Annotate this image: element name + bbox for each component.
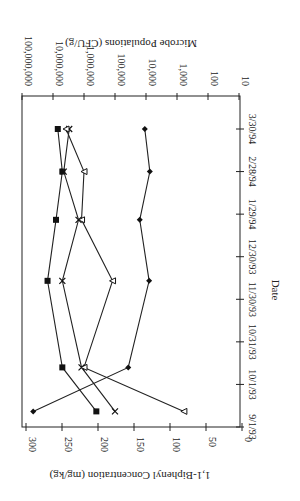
date-tick-label: 11/30/93 <box>247 282 258 317</box>
square-marker-icon <box>59 364 65 370</box>
date-tick-label: 2/28/94 <box>247 156 258 187</box>
log-tick-label: 1,000 <box>178 64 189 87</box>
plot-frame <box>22 96 240 427</box>
date-tick-label: 10/1/93 <box>247 369 258 400</box>
date-tick-label: 9/1/93 <box>247 414 258 440</box>
series-line <box>33 129 150 411</box>
x-axis-title: Date <box>270 280 282 301</box>
concentration-tick-label: 300 <box>27 437 38 452</box>
square-marker-icon <box>53 217 59 223</box>
diamond-marker-icon <box>142 126 148 132</box>
triangle-marker-icon <box>63 126 69 132</box>
log-tick-label: 10 <box>240 76 251 86</box>
data-series <box>30 126 187 414</box>
x-marker-icon <box>112 408 118 414</box>
concentration-tick-label: 150 <box>135 437 146 452</box>
diamond-marker-icon <box>30 408 36 414</box>
date-axis: 9/1/9310/1/9310/31/9311/30/9312/30/931/2… <box>236 114 258 440</box>
diamond-marker-icon <box>137 217 143 223</box>
date-tick-label: 10/31/93 <box>247 324 258 360</box>
chart: 101001,00010,000100,0001,000,00010,000,0… <box>0 0 300 501</box>
concentration-tick-label: 100 <box>171 437 182 452</box>
log-tick-label: 100,000 <box>116 54 127 87</box>
date-tick-label: 1/29/94 <box>247 199 258 230</box>
diamond-marker-icon <box>125 364 131 370</box>
concentration-tick-label: 200 <box>99 437 110 452</box>
diamond-marker-icon <box>146 278 152 284</box>
log-tick-label: 100 <box>209 71 220 86</box>
triangle-marker-icon <box>110 278 116 284</box>
left-axis-title: 1,1-Biphenyl Concentration (mg/kg) <box>49 469 210 482</box>
concentration-tick-label: 50 <box>207 437 218 447</box>
diamond-marker-icon <box>147 169 153 175</box>
log-tick-label: 10,000 <box>147 59 158 87</box>
concentration-tick-label: 250 <box>63 437 74 452</box>
square-marker-icon <box>55 126 61 132</box>
date-tick-label: 3/30/94 <box>247 114 258 145</box>
log-tick-label: 10,000,000 <box>54 41 65 86</box>
square-marker-icon <box>45 278 51 284</box>
square-marker-icon <box>93 408 99 414</box>
log-tick-label: 1,000,000 <box>85 46 96 86</box>
triangle-marker-icon <box>181 408 187 414</box>
right-axis-title: Microbe Populations (CFU/g) <box>65 37 197 50</box>
date-tick-label: 12/30/93 <box>247 239 258 275</box>
log-tick-label: 100,000,000 <box>23 36 34 86</box>
